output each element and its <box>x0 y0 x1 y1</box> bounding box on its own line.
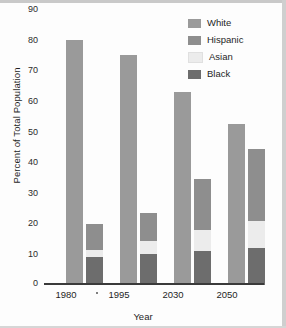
bar-stacked-2030 <box>194 179 211 285</box>
x-tick-2030: 2030 <box>145 289 201 300</box>
segment-black-2050 <box>248 248 265 285</box>
legend-label-black: Black <box>207 69 230 79</box>
legend-swatch-black-icon <box>188 70 201 79</box>
legend-item-black: Black <box>188 67 243 81</box>
segment-asian-2050 <box>248 221 265 249</box>
x-tick-1995: 1995 <box>91 289 147 300</box>
legend-label-hispanic: Hispanic <box>207 35 243 45</box>
chart-figure: 90 80 70 60 50 40 30 20 10 0 Percent of … <box>0 0 286 328</box>
segment-asian-1980 <box>86 250 103 258</box>
legend-swatch-hispanic-icon <box>188 36 201 45</box>
y-tick-80: 80 <box>10 36 38 45</box>
x-axis-line <box>44 283 264 285</box>
bar-white-2050 <box>228 124 245 285</box>
segment-asian-2030 <box>194 230 211 251</box>
legend-label-white: White <box>207 18 231 28</box>
chart-legend: White Hispanic Asian Black <box>188 16 243 84</box>
x-tick-2050: 2050 <box>199 289 255 300</box>
segment-hispanic-2030 <box>194 179 211 230</box>
legend-swatch-asian-icon <box>188 52 203 63</box>
segment-asian-1995 <box>140 241 157 255</box>
legend-item-white: White <box>188 16 243 30</box>
segment-black-2030 <box>194 251 211 285</box>
bar-stacked-1995 <box>140 213 157 285</box>
y-tick-0: 0 <box>10 279 38 288</box>
segment-hispanic-1995 <box>140 213 157 241</box>
x-axis-title: Year <box>0 311 286 322</box>
segment-black-1980 <box>86 257 103 285</box>
bar-stacked-1980 <box>86 224 103 285</box>
segment-black-1995 <box>140 254 157 285</box>
bar-white-1995 <box>120 55 137 285</box>
segment-hispanic-2050 <box>248 149 265 221</box>
bar-white-1980 <box>66 40 83 285</box>
bar-white-2030 <box>174 92 191 285</box>
scan-edge-right <box>282 0 286 328</box>
scan-edge-top <box>0 0 286 3</box>
y-tick-90: 90 <box>10 5 38 14</box>
legend-item-asian: Asian <box>188 50 243 64</box>
legend-item-hispanic: Hispanic <box>188 33 243 47</box>
legend-label-asian: Asian <box>209 52 233 62</box>
y-axis-title: Percent of Total Population <box>11 46 22 206</box>
y-tick-10: 10 <box>10 250 38 259</box>
x-tick-1980: 1980 <box>38 289 94 300</box>
segment-hispanic-1980 <box>86 224 103 250</box>
legend-swatch-white-icon <box>188 19 201 28</box>
bar-stacked-2050 <box>248 149 265 285</box>
y-tick-20: 20 <box>10 219 38 228</box>
